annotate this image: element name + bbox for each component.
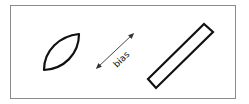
strip-rectangle bbox=[148, 24, 213, 88]
diagram-canvas: bias bbox=[0, 0, 249, 104]
lens-shape bbox=[44, 34, 79, 70]
